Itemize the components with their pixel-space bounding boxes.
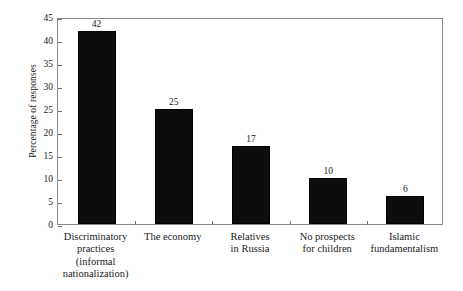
x-tick-mark bbox=[367, 221, 368, 225]
x-category-label-line: nationalization) bbox=[36, 268, 156, 280]
y-tick-mark bbox=[58, 88, 62, 89]
bar-value-label: 25 bbox=[169, 97, 179, 108]
y-tick-mark bbox=[58, 157, 62, 158]
y-tick-label: 30 bbox=[31, 81, 53, 94]
y-tick-label: 45 bbox=[31, 12, 53, 25]
bar-value-label: 42 bbox=[92, 19, 102, 30]
y-tick-label: 15 bbox=[31, 150, 53, 163]
x-category-label-line: fundamentalism bbox=[344, 243, 463, 255]
x-tick-mark bbox=[212, 221, 213, 225]
y-tick-label: 25 bbox=[31, 104, 53, 117]
y-tick-label: 10 bbox=[31, 173, 53, 186]
x-category-label-line: practices bbox=[36, 243, 156, 255]
y-tick-label: 35 bbox=[31, 58, 53, 71]
y-tick-label: 20 bbox=[31, 127, 53, 140]
y-tick-mark bbox=[58, 203, 62, 204]
y-tick-label: 5 bbox=[31, 196, 53, 209]
bar-value-label: 17 bbox=[246, 134, 256, 145]
x-category-label-line: Islamic bbox=[344, 231, 463, 243]
bar: 17 bbox=[232, 146, 270, 224]
bar-chart-figure: Percentage of responses 0510152025303540… bbox=[0, 0, 463, 291]
plot-area: 051015202530354045 422517106 bbox=[57, 18, 443, 225]
y-tick-mark bbox=[58, 226, 62, 227]
y-tick-mark bbox=[58, 42, 62, 43]
bar: 25 bbox=[155, 109, 193, 224]
bar-value-label: 10 bbox=[323, 166, 333, 177]
bar-value-label: 6 bbox=[403, 184, 408, 195]
y-tick-label: 40 bbox=[31, 35, 53, 48]
x-category-label: Islamicfundamentalism bbox=[344, 231, 463, 256]
bar: 10 bbox=[309, 178, 347, 224]
y-tick-mark bbox=[58, 65, 62, 66]
y-tick-mark bbox=[58, 111, 62, 112]
bar: 6 bbox=[386, 196, 424, 224]
y-tick-mark bbox=[58, 19, 62, 20]
x-tick-mark bbox=[290, 221, 291, 225]
y-tick-mark bbox=[58, 134, 62, 135]
bar: 42 bbox=[78, 31, 116, 224]
y-tick-mark bbox=[58, 180, 62, 181]
x-tick-mark bbox=[135, 221, 136, 225]
x-category-label-line: (informal bbox=[36, 256, 156, 268]
